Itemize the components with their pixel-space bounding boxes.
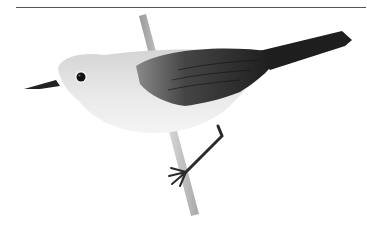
bird-illustration xyxy=(0,0,367,225)
bird-eye xyxy=(75,71,87,83)
bird-bill xyxy=(24,80,60,89)
